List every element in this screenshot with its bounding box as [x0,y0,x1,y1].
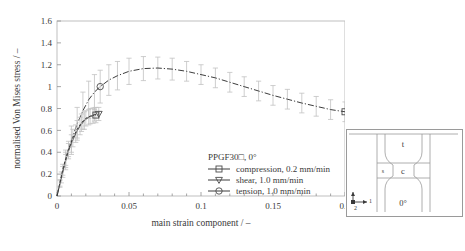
legend-label-1: shear, 1.0 mm/min [236,175,304,185]
specimen-inset-panel: t c s 0° 1 2 [346,129,463,217]
y-tick-label: 0.4 [41,147,53,157]
chart-screenshot: 00.20.40.60.811.21.41.600.050.10.150.2ma… [0,0,465,251]
y-tick-label: 0.8 [41,104,53,114]
legend-label-2: tension, 1.0 mm/min [236,186,311,196]
x-tick-label: 0.2 [339,201,345,211]
x-tick-label: 0.05 [121,201,137,211]
y-tick-label: 0.6 [41,126,53,136]
legend-label-0: compression, 0.2 mm/min [236,164,330,174]
x-tick-label: 0.15 [265,201,281,211]
y-tick-label: 1.4 [41,38,53,48]
y-tick-label: 1 [48,82,53,92]
stress-strain-chart: 00.20.40.60.811.21.41.600.050.10.150.2ma… [0,0,345,251]
legend-entry: compression, 0.2 mm/min [208,164,330,174]
axis-indicator-label-2: 2 [354,205,357,211]
y-tick-label: 0.2 [41,169,52,179]
legend-title: PPGF30□, 0° [208,152,257,162]
legend-entry: tension, 1.0 mm/min [208,186,311,196]
y-axis-title: normalised Von Mises stress / – [12,48,22,168]
inset-label-bottom: 0° [399,198,407,208]
x-axis-title: main strain component / – [151,218,250,228]
x-tick-label: 0.1 [195,201,206,211]
plot-area-container: 00.20.40.60.811.21.41.600.050.10.150.2ma… [0,0,345,251]
inset-label-top: t [402,139,405,149]
axis-indicator: 1 2 [351,192,372,211]
axis-indicator-label-1: 1 [369,198,372,204]
series-line-1 [57,114,99,196]
x-tick-label: 0 [55,201,60,211]
inset-label-center: c [401,166,405,176]
y-tick-label: 1.2 [41,60,52,70]
y-tick-label: 1.6 [41,16,53,26]
y-tick-label: 0 [48,191,53,201]
inset-label-left: s [382,168,385,174]
specimen-diagram: t c s 0° 1 2 [347,130,460,214]
legend-entry: shear, 1.0 mm/min [208,175,304,185]
